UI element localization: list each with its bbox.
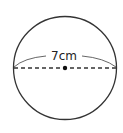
diameter-label: 7cm [51,49,77,63]
circle-diagram: 7cm [0,0,123,133]
dimension-arc-right [82,56,116,67]
dimension-arc-left [14,56,46,67]
center-point [63,66,67,70]
